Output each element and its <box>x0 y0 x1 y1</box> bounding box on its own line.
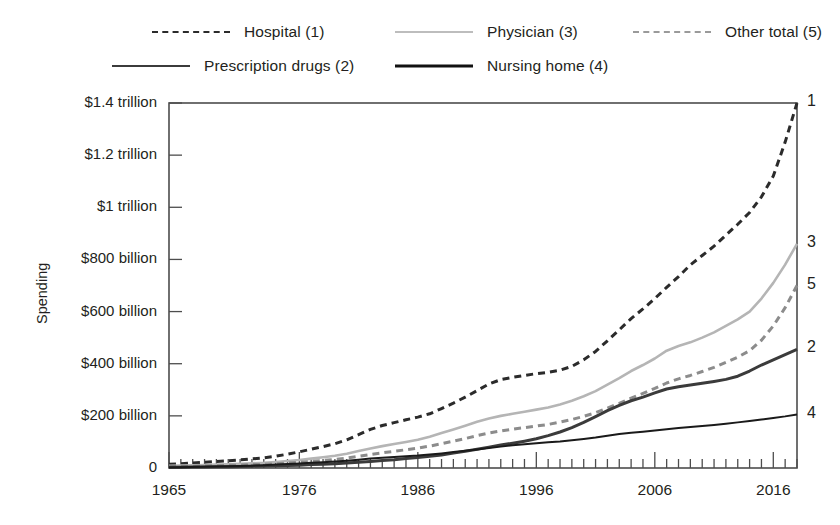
plot-frame <box>169 103 797 468</box>
series-line-other-total <box>169 286 797 467</box>
plot-area <box>0 0 840 525</box>
series-line-hospital <box>169 103 797 464</box>
line-chart: Hospital (1) Physician (3) Other total (… <box>0 0 840 525</box>
series-line-physician <box>169 244 797 466</box>
